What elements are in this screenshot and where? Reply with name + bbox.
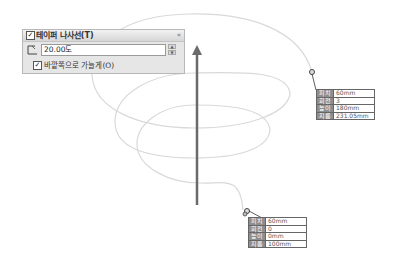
end-point-handle[interactable] <box>310 70 317 91</box>
taper-outward-label: 바깥쪽으로 가늘게(O) <box>44 60 114 71</box>
panel-title-bar[interactable]: ✓ 테이퍼 나사선(T) « <box>23 30 184 42</box>
taper-angle-input[interactable]: 20.00도 <box>41 44 166 56</box>
end-callout: 피치60mm 회전3 높이180mm 지름231.05mm <box>316 89 375 120</box>
axis-arrow[interactable] <box>192 45 202 205</box>
callout-row: 피치60mm <box>249 218 307 226</box>
taper-angle-icon <box>27 44 38 55</box>
spin-up-button[interactable]: ▲ <box>168 44 176 49</box>
end-diameter-value[interactable]: 231.05mm <box>334 112 375 120</box>
start-height-value[interactable]: 0mm <box>266 233 307 241</box>
panel-title: 테이퍼 나사선(T) <box>36 30 94 41</box>
callout-row: 피치60mm <box>317 90 375 98</box>
callout-row: 높이180mm <box>317 105 375 113</box>
end-pitch-value[interactable]: 60mm <box>334 90 375 98</box>
start-callout: 피치60mm 회전0 높이0mm 지름100mm <box>248 217 307 248</box>
collapse-icon[interactable]: « <box>177 30 181 41</box>
spin-down-button[interactable]: ▼ <box>168 50 176 55</box>
end-height-value[interactable]: 180mm <box>334 105 375 113</box>
angle-spinner[interactable]: ▲ ▼ <box>168 44 176 56</box>
callout-row: 높이0mm <box>249 233 307 241</box>
start-diameter-value[interactable]: 100mm <box>266 240 307 248</box>
taper-helix-panel: ✓ 테이퍼 나사선(T) « 20.00도 ▲ ▼ ✓ 바깥쪽으로 가늘게(O) <box>22 29 185 74</box>
taper-outward-checkbox[interactable]: ✓ <box>33 61 42 70</box>
start-pitch-value[interactable]: 60mm <box>266 218 307 226</box>
callout-row: 지름231.05mm <box>317 112 375 120</box>
callout-row: 지름100mm <box>249 240 307 248</box>
taper-helix-checkbox[interactable]: ✓ <box>26 31 35 40</box>
